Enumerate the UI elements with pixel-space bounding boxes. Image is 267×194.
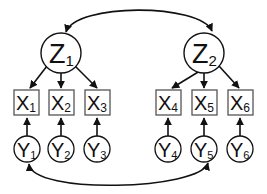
error-node-y4: Y4 (155, 136, 181, 162)
edge-z2-x6 (219, 66, 239, 88)
indicator-node-x2: X2 (49, 90, 74, 115)
error-node-y3: Y3 (84, 136, 110, 162)
path-diagram: Z1 Z2 X1 X2 X3 X4 X5 X6 Y1 Y2 Y3 (0, 0, 267, 194)
error-node-y2: Y2 (48, 136, 74, 162)
indicator-node-x6: X6 (228, 90, 253, 115)
latent-node-z1: Z1 (41, 33, 81, 73)
indicator-node-x5: X5 (192, 90, 217, 115)
covariance-arc-z1-z2 (66, 10, 212, 32)
indicator-node-x4: X4 (156, 90, 181, 115)
latent-node-z2: Z2 (184, 33, 224, 73)
covariance-arc-y1-y5 (29, 163, 208, 185)
error-node-y1: Y1 (14, 136, 40, 162)
indicator-node-x3: X3 (85, 90, 110, 115)
edge-z1-x3 (75, 66, 97, 88)
edge-z1-x1 (30, 66, 47, 88)
indicator-node-x1: X1 (14, 90, 39, 115)
error-node-y6: Y6 (227, 136, 253, 162)
error-node-y5: Y5 (191, 136, 217, 162)
